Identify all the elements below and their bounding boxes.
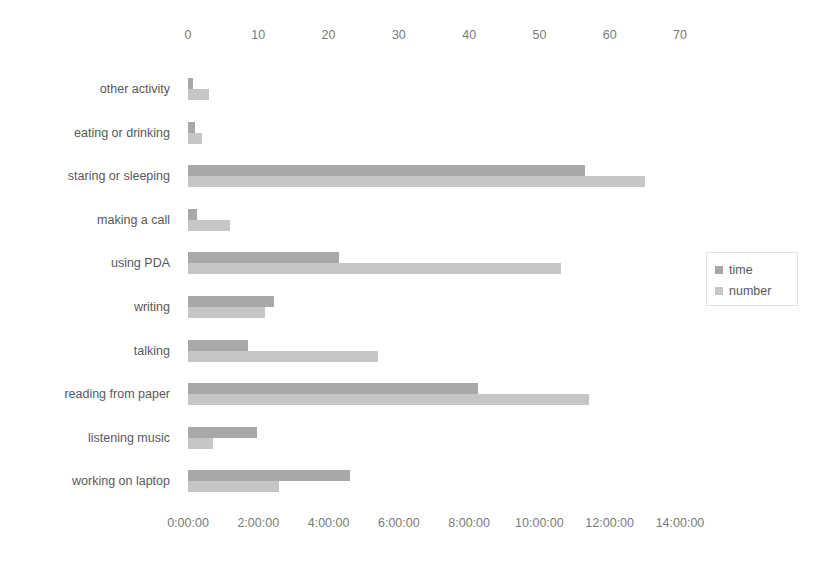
top-axis-number: 010203040506070 xyxy=(0,28,833,50)
bar-group xyxy=(188,78,680,100)
bar-number xyxy=(188,481,279,492)
legend: timenumber xyxy=(706,252,798,306)
category-label: staring or sleeping xyxy=(68,169,170,183)
bar-time xyxy=(188,78,193,89)
bar-number xyxy=(188,220,230,231)
legend-label: number xyxy=(729,284,771,298)
bottom-axis-tick: 10:00:00 xyxy=(515,516,564,530)
legend-swatch-icon xyxy=(715,266,723,274)
legend-label: time xyxy=(729,263,753,277)
category-label: other activity xyxy=(100,82,170,96)
bar-group xyxy=(188,340,680,362)
category-axis-labels: other activityeating or drinkingstaring … xyxy=(0,70,178,506)
bar-time xyxy=(188,427,257,438)
bar-group xyxy=(188,209,680,231)
bottom-axis-tick: 6:00:00 xyxy=(378,516,420,530)
bar-group xyxy=(188,165,680,187)
bottom-axis-tick: 4:00:00 xyxy=(308,516,350,530)
bar-number xyxy=(188,394,589,405)
top-axis-tick: 0 xyxy=(185,28,192,42)
legend-item[interactable]: number xyxy=(715,280,789,301)
bar-time xyxy=(188,340,248,351)
bottom-axis-tick: 2:00:00 xyxy=(237,516,279,530)
bar-chart: 010203040506070 other activityeating or … xyxy=(0,0,833,563)
bar-number xyxy=(188,307,265,318)
bottom-axis-time: 0:00:002:00:004:00:006:00:008:00:0010:00… xyxy=(0,516,833,538)
category-label: making a call xyxy=(97,213,170,227)
bar-group xyxy=(188,296,680,318)
bar-time xyxy=(188,383,478,394)
top-axis-tick: 10 xyxy=(251,28,265,42)
top-axis-tick: 20 xyxy=(322,28,336,42)
bar-time xyxy=(188,165,585,176)
bar-group xyxy=(188,122,680,144)
bar-number xyxy=(188,89,209,100)
bar-time xyxy=(188,209,197,220)
bar-group xyxy=(188,383,680,405)
bar-number xyxy=(188,438,213,449)
bar-number xyxy=(188,351,378,362)
top-axis-tick: 50 xyxy=(532,28,546,42)
category-label: reading from paper xyxy=(64,387,170,401)
category-label: talking xyxy=(134,344,170,358)
category-label: using PDA xyxy=(111,256,170,270)
category-label: working on laptop xyxy=(72,474,170,488)
bar-time xyxy=(188,122,195,133)
bottom-axis-tick: 8:00:00 xyxy=(448,516,490,530)
top-axis-tick: 30 xyxy=(392,28,406,42)
category-label: eating or drinking xyxy=(74,126,170,140)
plot-area xyxy=(188,70,680,506)
legend-swatch-icon xyxy=(715,287,723,295)
bar-time xyxy=(188,252,339,263)
bar-time xyxy=(188,296,274,307)
bottom-axis-tick: 14:00:00 xyxy=(656,516,705,530)
bottom-axis-tick: 12:00:00 xyxy=(585,516,634,530)
legend-item[interactable]: time xyxy=(715,259,789,280)
bar-number xyxy=(188,263,561,274)
bar-group xyxy=(188,252,680,274)
bottom-axis-tick: 0:00:00 xyxy=(167,516,209,530)
top-axis-tick: 70 xyxy=(673,28,687,42)
category-label: listening music xyxy=(88,431,170,445)
bar-time xyxy=(188,470,350,481)
top-axis-tick: 40 xyxy=(462,28,476,42)
top-axis-tick: 60 xyxy=(603,28,617,42)
bar-number xyxy=(188,133,202,144)
bar-number xyxy=(188,176,645,187)
category-label: writing xyxy=(134,300,170,314)
bar-group xyxy=(188,427,680,449)
bar-group xyxy=(188,470,680,492)
